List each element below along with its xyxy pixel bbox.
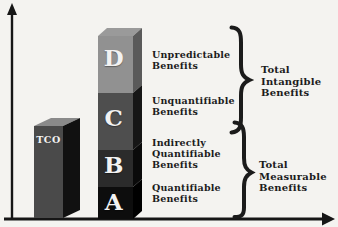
segment-letter-b: B [96, 153, 132, 176]
label-total-measurable-benefits: Total Measurable Benefits [259, 159, 327, 194]
segment-d-side-face [133, 28, 142, 93]
tco-vs-benefits-diagram: TCO D C B A Unpredictable Benefits Unqua… [0, 0, 338, 227]
segment-c-side-face [133, 85, 142, 150]
label-unquantifiable-benefits: Unquantifiable Benefits [152, 95, 235, 117]
label-quantifiable-benefits: Quantifiable Benefits [152, 182, 221, 204]
tco-bar-label: TCO [34, 135, 63, 145]
segment-letter-d: D [96, 46, 132, 69]
measurable-brace-icon [235, 123, 252, 218]
segment-letter-c: C [96, 106, 132, 129]
x-axis-arrow-icon [322, 213, 335, 226]
segment-letter-a: A [96, 190, 132, 213]
label-indirectly-quantifiable-benefits: Indirectly Quantifiable Benefits [152, 137, 221, 170]
label-unpredictable-benefits: Unpredictable Benefits [152, 49, 230, 71]
label-total-intangible-benefits: Total Intangible Benefits [261, 64, 321, 99]
tco-bar-side-face [63, 118, 80, 218]
y-axis-arrow-icon [7, 3, 17, 15]
